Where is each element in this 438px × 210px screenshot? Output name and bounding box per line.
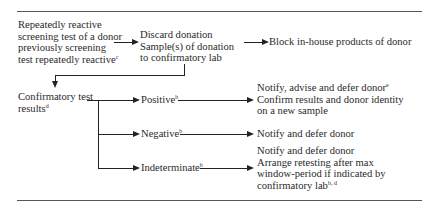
arrow-right-icon: [247, 165, 254, 171]
arrow-right-icon: [247, 131, 254, 137]
arrow-right-icon: [247, 97, 254, 103]
start-node-line-2: screening test of a donor: [18, 31, 122, 43]
result-indeterminate: Indeterminateb: [141, 162, 203, 174]
branch-negative: [98, 134, 135, 135]
connector-indeterminate-action: [200, 168, 248, 169]
connector-positive-action: [178, 100, 248, 101]
start-node-line-3: previously screening: [18, 42, 122, 54]
confirmatory-node-line-2-text: results: [18, 103, 46, 114]
action-positive-line-3: on a new sample: [257, 105, 404, 117]
action-positive-line-1-text: Notify, advise and defer donor: [257, 82, 386, 93]
start-node-line-4-text: test repeatedly reactive: [18, 54, 116, 65]
action-positive-line-1: Notify, advise and defer donore: [257, 82, 404, 94]
arrow-right-icon: [133, 131, 140, 137]
block-node: Block in-house products of donor: [269, 36, 411, 48]
connector-start-discard: [114, 42, 132, 43]
top-rule: [17, 11, 422, 12]
arrow-right-icon: [133, 165, 140, 171]
footnote-marker: d: [46, 103, 49, 109]
start-node: Repeatedly reactive screening test of a …: [18, 19, 122, 65]
connector-discard-left: [55, 75, 185, 76]
arrow-right-icon: [132, 39, 139, 45]
result-negative-label: Negative: [141, 128, 179, 139]
action-indeterminate-line-3: window-period if indicated by: [257, 168, 386, 180]
result-positive: Positiveb: [141, 94, 178, 106]
result-positive-label: Positive: [141, 94, 175, 105]
discard-node-line-2: Sample(s) of donation: [140, 41, 234, 53]
start-node-line-1: Repeatedly reactive: [18, 19, 122, 31]
action-negative: Notify and defer donor: [257, 128, 354, 140]
start-node-line-4: test repeatedly reactivec: [18, 54, 122, 66]
bottom-rule: [17, 200, 422, 201]
connector-discard-block: [244, 42, 263, 43]
confirmatory-node-line-2: resultsd: [18, 103, 93, 115]
action-indeterminate-line-2: Arrange retesting after max: [257, 157, 386, 169]
arrow-right-icon: [133, 97, 140, 103]
footnote-marker: c: [116, 54, 119, 60]
confirmatory-node-line-1: Confirmatory test: [18, 91, 93, 103]
footnote-marker: b, d: [328, 180, 337, 186]
discard-node-line-3: to confirmatory lab: [140, 52, 234, 64]
action-positive: Notify, advise and defer donore Confirm …: [257, 82, 404, 117]
action-indeterminate-line-1: Notify and defer donor: [257, 145, 386, 157]
discard-node-line-1: Discard donation: [140, 29, 234, 41]
discard-node: Discard donation Sample(s) of donation t…: [140, 29, 234, 64]
footnote-marker: e: [386, 82, 389, 88]
connector-negative-action: [180, 134, 248, 135]
branch-trunk: [87, 100, 135, 101]
action-indeterminate-line-4: confirmatory labb, d: [257, 180, 386, 192]
confirmatory-node: Confirmatory test resultsd: [18, 91, 93, 114]
arrow-right-icon: [262, 39, 269, 45]
arrow-down-icon: [52, 81, 58, 88]
result-negative: Negativeb: [141, 128, 182, 140]
action-indeterminate: Notify and defer donor Arrange retesting…: [257, 145, 386, 191]
branch-indeterminate: [98, 168, 135, 169]
action-indeterminate-line-4-text: confirmatory lab: [257, 180, 328, 191]
action-positive-line-2: Confirm results and donor identity: [257, 94, 404, 106]
connector-discard-down: [184, 64, 185, 75]
action-negative-line-1: Notify and defer donor: [257, 128, 354, 140]
result-indeterminate-label: Indeterminate: [141, 162, 200, 173]
